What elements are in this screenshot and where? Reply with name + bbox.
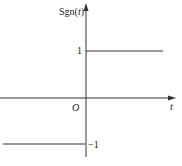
tick-label-positive: 1 <box>77 46 82 56</box>
y-label-suffix: ) <box>81 6 84 17</box>
x-axis-label: t <box>170 102 173 112</box>
y-axis-arrow-icon <box>84 3 89 11</box>
y-axis-label: Sgn(t) <box>59 7 84 17</box>
x-axis-arrow-icon <box>168 96 176 101</box>
origin-label: O <box>72 103 79 113</box>
y-label-prefix: Sgn( <box>59 6 78 17</box>
tick-label-negative: −1 <box>88 140 99 150</box>
